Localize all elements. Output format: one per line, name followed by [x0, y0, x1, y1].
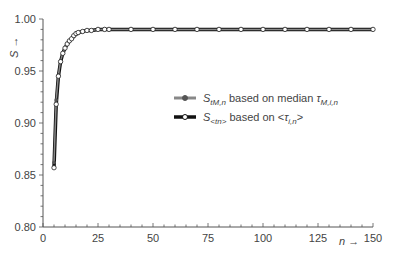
x-tick-label: 150: [364, 232, 382, 244]
data-point-mean: [349, 27, 353, 31]
data-point-mean: [107, 27, 111, 31]
data-point-mean: [61, 51, 65, 55]
axes: 02550751001251500.800.850.900.951.00: [15, 13, 383, 244]
y-tick-label: 0.80: [15, 221, 36, 233]
data-point-mean: [89, 28, 93, 32]
data-point-median: [52, 161, 56, 165]
data-point-mean: [102, 27, 106, 31]
y-tick-label: 1.00: [15, 13, 36, 25]
data-point-mean: [52, 166, 56, 170]
legend: StM,n based on median τM,i,n S<tn> based…: [174, 92, 338, 126]
x-axis-label: n →: [339, 235, 359, 247]
data-point-mean: [239, 27, 243, 31]
line-chart: 02550751001251500.800.850.900.951.00 StM…: [0, 0, 396, 258]
data-point-mean: [195, 27, 199, 31]
data-point-mean: [327, 27, 331, 31]
legend-marker-median: [183, 96, 188, 101]
data-point-mean: [80, 29, 84, 33]
x-tick-label: 125: [309, 232, 327, 244]
data-point-mean: [129, 27, 133, 31]
data-point-mean: [283, 27, 287, 31]
legend-marker-mean: [183, 115, 188, 120]
data-point-mean: [76, 30, 80, 34]
x-tick-label: 50: [147, 232, 159, 244]
data-point-mean: [63, 46, 67, 50]
series-line-median: [54, 29, 373, 162]
data-point-mean: [371, 27, 375, 31]
legend-label-median: StM,n based on median τM,i,n: [203, 92, 338, 107]
legend-item-median: StM,n based on median τM,i,n: [174, 92, 338, 107]
x-tick-label: 100: [254, 232, 272, 244]
x-tick-label: 0: [40, 232, 46, 244]
x-tick-label: 25: [92, 232, 104, 244]
data-point-mean: [96, 27, 100, 31]
data-point-mean: [85, 28, 89, 32]
data-point-mean: [217, 27, 221, 31]
y-tick-label: 0.85: [15, 169, 36, 181]
y-tick-label: 0.90: [15, 117, 36, 129]
legend-label-mean: S<tn> based on <τi,n>: [203, 111, 303, 126]
data-point-mean: [261, 27, 265, 31]
data-point-mean: [58, 59, 62, 63]
y-axis-label: S →: [8, 37, 20, 58]
data-point-mean: [151, 27, 155, 31]
data-point-mean: [305, 27, 309, 31]
x-tick-label: 75: [202, 232, 214, 244]
data-point-mean: [54, 102, 58, 106]
data-point-median: [54, 98, 58, 102]
data-point-mean: [173, 27, 177, 31]
y-tick-label: 0.95: [15, 65, 36, 77]
data-point-mean: [56, 74, 60, 78]
legend-item-mean: S<tn> based on <τi,n>: [174, 111, 303, 126]
